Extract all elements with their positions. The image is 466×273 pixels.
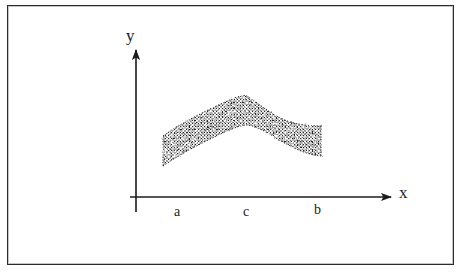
axes-group <box>130 50 391 212</box>
shaded-band-region <box>163 96 321 166</box>
x-axis-label: x <box>399 184 408 201</box>
plot-canvas <box>0 0 466 273</box>
x-tick-label-a: a <box>174 205 180 219</box>
x-tick-label-c: c <box>243 205 249 219</box>
figure-page: y x a c b <box>0 0 466 273</box>
x-tick-label-b: b <box>314 203 321 217</box>
y-axis-label: y <box>126 27 135 44</box>
